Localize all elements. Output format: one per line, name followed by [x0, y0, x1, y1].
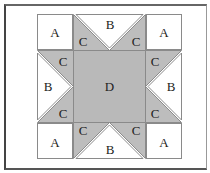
label-a-top-left: A	[50, 25, 60, 40]
label-c-right-bottom: C	[151, 106, 160, 121]
label-c-right-top: C	[151, 54, 160, 69]
label-b-bottom: B	[106, 142, 115, 157]
label-c-bottom-left: C	[79, 123, 88, 138]
label-c-top-left: C	[79, 34, 88, 49]
label-c-top-right: C	[132, 34, 141, 49]
label-b-right: B	[167, 79, 176, 94]
label-a-bottom-right: A	[159, 135, 169, 150]
label-b-top: B	[106, 17, 115, 32]
quilt-block-diagram: A A A A B C C B C C B C C B C C D	[0, 0, 210, 173]
label-d-center: D	[105, 79, 114, 94]
label-a-bottom-left: A	[50, 135, 60, 150]
label-b-left: B	[44, 79, 53, 94]
label-c-left-bottom: C	[59, 106, 68, 121]
label-a-top-right: A	[159, 25, 169, 40]
label-c-left-top: C	[59, 54, 68, 69]
label-c-bottom-right: C	[132, 123, 141, 138]
